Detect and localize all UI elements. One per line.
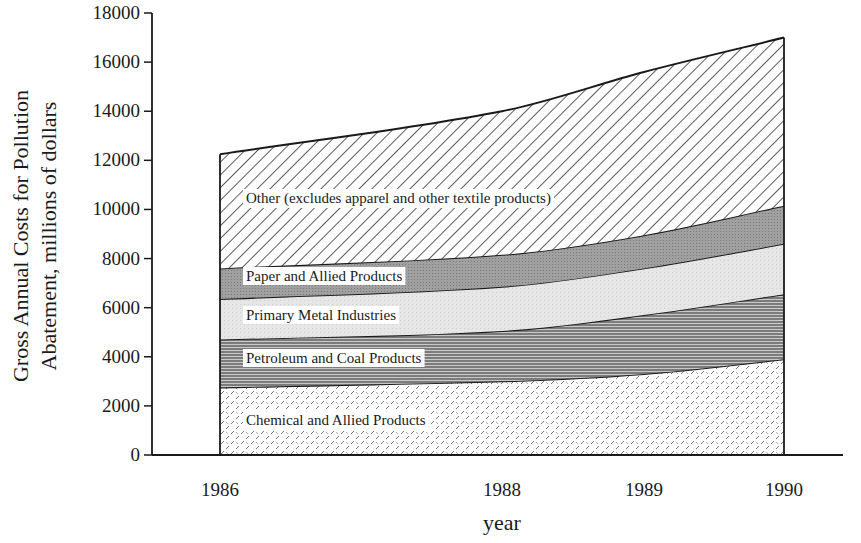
x-axis-title: year bbox=[483, 510, 522, 535]
y-tick-label: 12000 bbox=[93, 149, 141, 170]
y-axis-title: Abatement, millions of dollars bbox=[36, 102, 61, 371]
x-tick-label: 1986 bbox=[201, 479, 239, 500]
x-tick-label: 1988 bbox=[483, 479, 521, 500]
y-tick-label: 18000 bbox=[93, 2, 141, 23]
series-label-light-gray: Primary Metal Industries bbox=[243, 306, 399, 324]
y-tick-label: 6000 bbox=[102, 297, 140, 318]
series-label-dashes: Chemical and Allied Products bbox=[243, 411, 429, 429]
svg-text:Other (excludes apparel and ot: Other (excludes apparel and other textil… bbox=[246, 190, 551, 207]
x-tick-label: 1990 bbox=[765, 479, 803, 500]
y-tick-label: 8000 bbox=[102, 248, 140, 269]
y-tick-label: 0 bbox=[131, 444, 141, 465]
y-tick-label: 10000 bbox=[93, 198, 141, 219]
chart-container: 0200040006000800010000120001400016000180… bbox=[0, 0, 861, 543]
svg-text:Petroleum and Coal Products: Petroleum and Coal Products bbox=[246, 350, 422, 366]
series-label-diagonal-hatch: Other (excludes apparel and other textil… bbox=[243, 189, 554, 208]
svg-text:Chemical and Allied Products: Chemical and Allied Products bbox=[246, 412, 426, 428]
y-tick-label: 14000 bbox=[93, 100, 141, 121]
y-tick-label: 16000 bbox=[93, 51, 141, 72]
svg-text:Paper and Allied Products: Paper and Allied Products bbox=[246, 268, 402, 284]
series-label-dark-gray: Paper and Allied Products bbox=[243, 267, 405, 285]
y-tick-label: 2000 bbox=[102, 395, 140, 416]
series-label-horizontal-lines: Petroleum and Coal Products bbox=[243, 349, 425, 367]
svg-text:Primary Metal Industries: Primary Metal Industries bbox=[246, 307, 396, 323]
stacked-area-chart: 0200040006000800010000120001400016000180… bbox=[0, 0, 861, 543]
y-tick-label: 4000 bbox=[102, 346, 140, 367]
area-layers bbox=[220, 38, 784, 455]
y-axis-title: Gross Annual Costs for Pollution bbox=[8, 90, 33, 382]
x-tick-label: 1989 bbox=[625, 479, 663, 500]
